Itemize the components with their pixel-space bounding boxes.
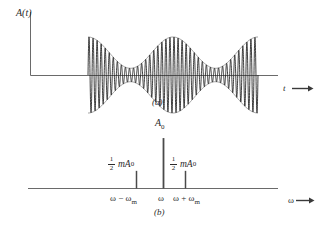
- amplitude-term-subscript-lower: 0: [131, 160, 135, 168]
- tick-upper-text: ω + ω: [173, 193, 194, 203]
- panel-b-tick-lower-sideband: ω − ωm: [110, 193, 137, 206]
- amplitude-term-upper: mA: [180, 159, 193, 169]
- panel-b-tick-carrier: ω: [158, 193, 164, 203]
- am-modulation-figure: A(t) t (a) A0 1 2 mA0 1 2 mA0 ω − ωm ω ω…: [0, 0, 315, 226]
- tick-lower-text: ω − ω: [110, 193, 131, 203]
- panel-a-caption: (a): [152, 98, 163, 107]
- panel-b-axes: [28, 189, 315, 204]
- tick-upper-subscript: m: [194, 198, 199, 206]
- panel-b-lower-sideband-amplitude-label: 1 2 mA0: [108, 156, 134, 172]
- amplitude-term-subscript-upper: 0: [193, 160, 197, 168]
- tick-lower-subscript: m: [131, 198, 136, 206]
- panel-b-y-axis-label-subscript: 0: [161, 123, 165, 131]
- panel-a-upper-envelope: [88, 37, 258, 68]
- amplitude-term-lower: mA: [118, 159, 131, 169]
- fraction-one-half-lower: 1 2: [108, 156, 115, 172]
- panel-b-tick-upper-sideband: ω + ωm: [173, 193, 200, 206]
- panel-a-x-arrow-head: [308, 86, 314, 92]
- tick-carrier-text: ω: [158, 193, 164, 203]
- panel-a-lower-envelope: [88, 82, 258, 113]
- panel-b-x-arrow-head: [309, 198, 315, 204]
- panel-b-caption: (b): [154, 208, 165, 217]
- fraction-one-half-upper: 1 2: [170, 156, 177, 172]
- panel-b-y-axis-label: A0: [155, 118, 165, 131]
- panel-a-am-waveform: [88, 37, 258, 113]
- fraction-denominator: 2: [109, 165, 115, 172]
- panel-a-x-axis-label: t: [283, 84, 286, 93]
- fraction-numerator: 1: [109, 156, 115, 163]
- fraction-denominator: 2: [171, 165, 177, 172]
- fraction-numerator: 1: [171, 156, 177, 163]
- panel-a-axes: [31, 12, 314, 91]
- panel-a-y-axis-label: A(t): [16, 8, 32, 18]
- panel-b-upper-sideband-amplitude-label: 1 2 mA0: [170, 156, 196, 172]
- panel-b-x-axis-label: ω: [288, 196, 294, 205]
